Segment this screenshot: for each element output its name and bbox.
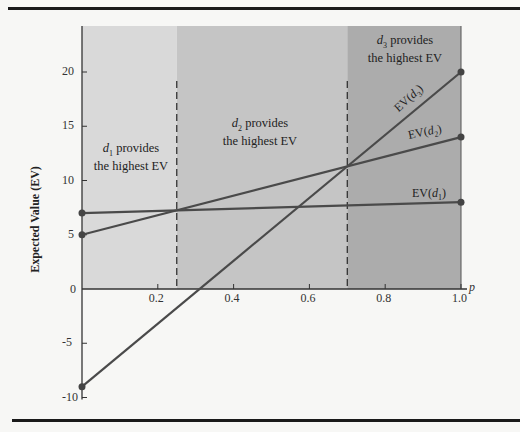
region-label-d3: d3 provides the highest EV (350, 34, 460, 65)
y-tick-label: 15 (62, 118, 74, 133)
y-tick-label: 0 (70, 282, 76, 297)
chart-plot (0, 0, 520, 432)
data-point (458, 134, 465, 141)
x-tick-label: 1.0 (452, 291, 467, 306)
data-point (79, 383, 86, 390)
data-point (458, 69, 465, 76)
y-tick-label: 20 (62, 64, 74, 79)
y-tick-label: 5 (68, 227, 74, 242)
region-label-d1: d1 provides the highest EV (85, 142, 177, 173)
x-tick-label: 0.8 (376, 291, 391, 306)
x-tick-label: 0.2 (149, 291, 164, 306)
x-tick-label: 0.6 (300, 291, 315, 306)
region-2 (177, 26, 348, 289)
y-tick-label: 10 (62, 173, 74, 188)
y-tick-label: -10 (62, 390, 78, 405)
region-3 (347, 26, 461, 289)
x-tick-label: 0.4 (225, 291, 240, 306)
data-point (79, 231, 86, 238)
y-tick-label: -5 (62, 335, 72, 350)
x-axis-label: p (469, 280, 475, 295)
data-point (458, 199, 465, 206)
region-label-d2: d2 provides the highest EV (200, 117, 320, 148)
series-label-ev-d1: EV(d1) (412, 186, 446, 202)
data-point (79, 210, 86, 217)
y-axis-label: Expected Value (EV) (28, 145, 43, 295)
